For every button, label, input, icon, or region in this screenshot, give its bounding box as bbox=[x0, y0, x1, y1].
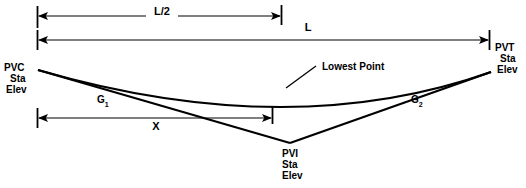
dimension-half-length: L/2 bbox=[38, 5, 282, 28]
incoming-grade-subscript: 1 bbox=[105, 101, 109, 108]
outgoing-grade-subscript: 2 bbox=[419, 101, 423, 108]
offset-x-label: X bbox=[152, 120, 160, 132]
pvt-label-block: PVT Sta Elev bbox=[495, 42, 518, 75]
pvi-elevation-label: Elev bbox=[282, 170, 303, 181]
pvi-label-block: PVI Sta Elev bbox=[282, 148, 303, 181]
pvc-elevation-label: Elev bbox=[6, 84, 27, 95]
lowest-point-label: Lowest Point bbox=[322, 61, 385, 72]
full-length-label: L bbox=[305, 21, 312, 33]
half-length-label: L/2 bbox=[154, 5, 170, 17]
vertical-curve-canvas: L/2 L Lowest Point X bbox=[0, 0, 526, 188]
pvc-label-block: PVC Sta Elev bbox=[4, 62, 27, 95]
pvt-station-label: Sta bbox=[500, 53, 516, 64]
pvi-code-label: PVI bbox=[282, 148, 298, 159]
pvt-elevation-label: Elev bbox=[497, 64, 518, 75]
lowest-point-leader-line bbox=[286, 66, 316, 88]
vertical-curve-diagram: L/2 L Lowest Point X bbox=[0, 0, 526, 188]
pvc-code-label: PVC bbox=[4, 62, 25, 73]
pvi-station-label: Sta bbox=[282, 159, 298, 170]
lowest-point-annotation: Lowest Point bbox=[286, 61, 385, 88]
pvt-code-label: PVT bbox=[495, 42, 514, 53]
pvc-station-label: Sta bbox=[10, 73, 26, 84]
incoming-grade-label: G1 bbox=[97, 94, 109, 108]
dimension-full-length: L bbox=[38, 20, 490, 50]
